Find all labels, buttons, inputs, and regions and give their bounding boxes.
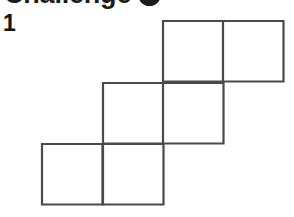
hexomino-svg bbox=[0, 0, 294, 217]
staircase-hexomino-figure bbox=[0, 0, 294, 217]
page-root: Challenge 1 bbox=[0, 0, 294, 217]
cell-r1c1 bbox=[103, 83, 164, 144]
hexomino-cell-group bbox=[42, 21, 284, 205]
cell-r2c0 bbox=[42, 144, 103, 205]
cell-r0c2 bbox=[163, 21, 224, 82]
cell-r0c3 bbox=[223, 21, 284, 82]
cell-r1c2 bbox=[163, 83, 224, 144]
cell-r2c1 bbox=[103, 144, 164, 205]
